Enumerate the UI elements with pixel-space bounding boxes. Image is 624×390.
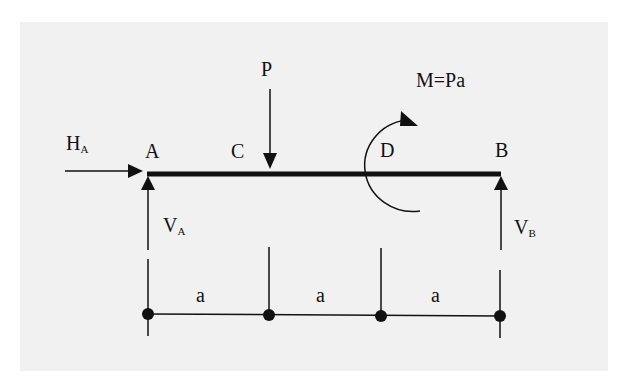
dimension-node-d [375,310,387,322]
reaction-va-arrow [141,176,155,250]
dimension-label-db: a [431,284,440,306]
reaction-ha-arrow [65,164,143,178]
reaction-vb-label: VB [514,216,536,239]
dimension-label-ac: a [196,284,205,306]
point-load-arrow [263,89,277,169]
moment-arc-arrow [365,111,420,211]
point-c-label: C [231,140,244,162]
dimension-node-a [142,308,154,320]
point-a-label: A [145,140,160,162]
reaction-ha-label: HA [66,132,88,155]
point-load-label: P [261,58,272,80]
reaction-va-label: VA [163,214,185,237]
dimension-node-c [263,309,275,321]
point-d-label: D [380,139,394,161]
dimension-node-b [494,310,506,322]
point-b-label: B [495,139,508,161]
dimension-label-cd: a [316,284,325,306]
beam-diagram: HA A C D B P M=Pa VA VB [0,0,624,390]
reaction-vb-arrow [494,176,508,250]
moment-label: M=Pa [416,69,465,91]
